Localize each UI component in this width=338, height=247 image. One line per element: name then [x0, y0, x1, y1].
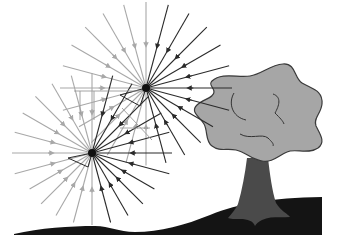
ray-arrowhead [157, 42, 158, 46]
ray-arrowhead [101, 188, 102, 192]
ray-arrowhead [112, 115, 114, 119]
tree-trunk [228, 158, 290, 226]
ray-arrowhead [168, 47, 170, 51]
ray-arrowhead [188, 76, 192, 77]
ray-arrowhead [50, 163, 54, 164]
ray-arrowhead [72, 184, 74, 187]
ray-arrowhead [183, 64, 187, 66]
light-ray [92, 153, 111, 223]
ray-arrowhead [58, 171, 61, 173]
ray-arrowhead [120, 122, 123, 125]
ray-arrowhead [188, 99, 192, 100]
projection-guide [74, 91, 146, 120]
ray-arrowhead [64, 179, 67, 182]
ray-arrowhead [122, 47, 124, 51]
eye-point-upper [142, 84, 150, 92]
ray-arrowhead [70, 115, 72, 119]
ray-arrowhead [61, 122, 64, 125]
ray-arrowhead [173, 115, 176, 118]
ray-arrowhead [109, 107, 112, 109]
ray-arrowhead [105, 64, 109, 66]
tree-crown [194, 64, 322, 161]
ray-arrowhead [134, 42, 135, 46]
ray-arrowhead [50, 142, 54, 143]
ray-arrowhead [54, 131, 58, 133]
ray-arrowhead [125, 122, 127, 125]
ray-arrowhead [131, 163, 135, 164]
ray-arrowhead [180, 107, 183, 109]
ray-arrowhead [82, 188, 83, 192]
ray-arrowhead [165, 122, 167, 125]
ray-arrowhead [100, 76, 104, 77]
ray-arrowhead [118, 179, 121, 182]
ray-arrowhead [110, 184, 112, 187]
ray-arrowhead [81, 111, 82, 115]
ray-arrowhead [113, 55, 116, 58]
ray-arrowhead [127, 131, 131, 133]
ray-arrowhead [176, 55, 179, 58]
ray-arrowhead [116, 115, 119, 118]
rays-upper-viewpoint [60, 2, 232, 165]
diagram-svg [0, 0, 338, 247]
ray-arrowhead [102, 111, 103, 115]
ray-arrowhead [156, 125, 157, 129]
diagram-canvas: Light rays converging on two viewpoints … [0, 0, 338, 247]
eye-point-lower [88, 149, 96, 157]
ray-arrowhead [123, 171, 126, 173]
ray-arrowhead [100, 99, 104, 100]
